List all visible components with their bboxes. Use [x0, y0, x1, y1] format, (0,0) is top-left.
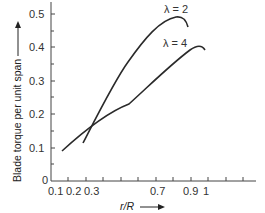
y-tick-0.4: 0.4 — [29, 41, 44, 53]
x-axis-arrow-icon — [140, 204, 165, 210]
x-tick-0.1: 0.1 — [48, 185, 63, 197]
x-tick-0.2: 0.2 — [66, 185, 81, 197]
x-tick-0.9: 0.9 — [183, 185, 198, 197]
y-axis-arrow-icon — [15, 21, 21, 56]
series-lambda-4-line — [62, 46, 205, 151]
x-axis-title: r/R — [120, 200, 134, 212]
x-tick-0.3: 0.3 — [84, 185, 99, 197]
y-tick-0.5: 0.5 — [29, 8, 44, 20]
y-tick-0.3: 0.3 — [29, 75, 44, 87]
y-ticks — [51, 14, 55, 164]
x-tick-1: 1 — [203, 185, 209, 197]
x-tick-0.7: 0.7 — [150, 185, 165, 197]
y-tick-0.1: 0.1 — [29, 142, 44, 154]
series-lambda-4-label: λ = 4 — [163, 37, 187, 49]
torque-chart: 0.5 0.4 0.3 0.2 0.1 0 0.1 0.2 0.3 0.7 0.… — [0, 0, 265, 213]
x-ticks — [68, 177, 243, 181]
series-lambda-2-line — [83, 17, 188, 143]
y-tick-0.2: 0.2 — [29, 108, 44, 120]
series-lambda-2-label: λ = 2 — [164, 3, 188, 15]
y-axis-title: Blade torque per unit span — [11, 59, 23, 182]
